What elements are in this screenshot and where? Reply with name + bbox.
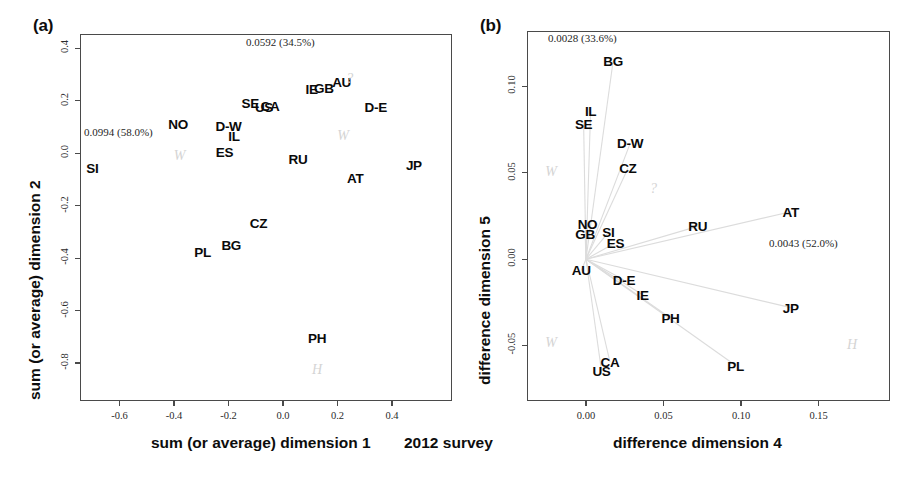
point-label-jp: JP bbox=[406, 158, 422, 173]
x-tick-mark bbox=[663, 401, 664, 406]
y-tick-label: 0.05 bbox=[506, 161, 517, 181]
panel-b-dim5-inertia: 0.0028 (33.6%) bbox=[548, 32, 617, 44]
panel-b-tag: (b) bbox=[480, 16, 501, 36]
y-tick-mark bbox=[75, 258, 80, 259]
point-label-ca: CA bbox=[260, 99, 279, 114]
point-label-de: D-E bbox=[613, 272, 635, 287]
panel-a-dim1-inertia: 0.0994 (58.0%) bbox=[84, 126, 153, 138]
x-tick-mark bbox=[119, 401, 120, 406]
y-tick-mark bbox=[75, 48, 80, 49]
point-label-ie: IE bbox=[636, 287, 648, 302]
x-tick-mark bbox=[585, 401, 586, 406]
point-label-cz: CZ bbox=[250, 215, 267, 230]
x-tick-label: -0.6 bbox=[111, 410, 128, 421]
x-tick-label: 0.0 bbox=[276, 410, 289, 421]
x-tick-mark bbox=[740, 401, 741, 406]
y-tick-label: -0.4 bbox=[59, 247, 70, 267]
x-tick-mark bbox=[173, 401, 174, 406]
y-tick-label: 0.0 bbox=[59, 142, 70, 162]
x-tick-label: 0.4 bbox=[385, 410, 398, 421]
x-tick-label: 0.05 bbox=[654, 410, 672, 421]
y-tick-mark bbox=[522, 172, 527, 173]
point-label-at: AT bbox=[347, 171, 363, 186]
panel-b-y-axis-title: difference dimension 5 bbox=[476, 216, 494, 385]
point-label-il: IL bbox=[228, 129, 239, 144]
point-label-au: AU bbox=[572, 263, 591, 278]
survey-year-label: 2012 survey bbox=[404, 434, 493, 452]
panel-b-dim4-inertia: 0.0043 (52.0%) bbox=[769, 237, 838, 249]
watermark-glyph: W bbox=[174, 148, 186, 164]
watermark-glyph: W bbox=[545, 335, 557, 351]
point-label-pl: PL bbox=[727, 358, 744, 373]
watermark-glyph: H bbox=[847, 337, 857, 353]
watermark-glyph: H bbox=[312, 362, 322, 378]
panel-b-x-axis-title: difference dimension 4 bbox=[613, 434, 782, 452]
y-tick-mark bbox=[522, 345, 527, 346]
panel-a-x-axis-title: sum (or average) dimension 1 bbox=[151, 434, 371, 452]
y-tick-label: -0.2 bbox=[59, 194, 70, 214]
two-panel-correspondence-analysis-figure: (a) sum (or average) dimension 2 sum (or… bbox=[0, 0, 923, 484]
point-label-de: D-E bbox=[365, 100, 387, 115]
point-label-ru: RU bbox=[289, 151, 308, 166]
point-label-no: NO bbox=[168, 117, 188, 132]
y-tick-label: -0.05 bbox=[506, 334, 517, 354]
y-tick-mark bbox=[75, 100, 80, 101]
point-label-pl: PL bbox=[194, 244, 211, 259]
y-tick-label: 0.10 bbox=[506, 75, 517, 95]
point-label-gb: GB bbox=[314, 80, 334, 95]
x-tick-mark bbox=[818, 401, 819, 406]
y-tick-label: 0.00 bbox=[506, 248, 517, 268]
point-label-at: AT bbox=[783, 204, 799, 219]
x-tick-label: 0.10 bbox=[732, 410, 750, 421]
x-tick-label: 0.2 bbox=[331, 410, 344, 421]
y-tick-label: 0.2 bbox=[59, 89, 70, 109]
point-label-bg: BG bbox=[221, 238, 241, 253]
x-tick-mark bbox=[391, 401, 392, 406]
point-label-dw: D-W bbox=[617, 136, 643, 151]
y-tick-mark bbox=[75, 153, 80, 154]
x-tick-label: -0.4 bbox=[166, 410, 183, 421]
point-label-gb: GB bbox=[575, 227, 595, 242]
y-tick-mark bbox=[75, 205, 80, 206]
x-tick-mark bbox=[228, 401, 229, 406]
point-label-se: SE bbox=[575, 116, 592, 131]
panel-a-tag: (a) bbox=[33, 16, 53, 36]
y-tick-mark bbox=[522, 259, 527, 260]
x-tick-label: 0.00 bbox=[577, 410, 595, 421]
point-label-ca: CA bbox=[601, 355, 620, 370]
y-tick-mark bbox=[522, 86, 527, 87]
watermark-glyph: ? bbox=[346, 71, 353, 87]
panel-a-dim2-inertia: 0.0592 (34.5%) bbox=[246, 36, 315, 48]
point-label-bg: BG bbox=[603, 54, 623, 69]
point-label-ru: RU bbox=[688, 219, 707, 234]
watermark-glyph: W bbox=[337, 128, 349, 144]
y-tick-mark bbox=[75, 310, 80, 311]
point-label-es: ES bbox=[216, 144, 233, 159]
point-label-es: ES bbox=[607, 235, 624, 250]
x-tick-mark bbox=[337, 401, 338, 406]
point-label-cz: CZ bbox=[619, 161, 636, 176]
point-label-ph: PH bbox=[308, 331, 326, 346]
y-tick-label: 0.4 bbox=[59, 37, 70, 57]
point-label-ph: PH bbox=[661, 311, 679, 326]
y-tick-label: -0.8 bbox=[59, 351, 70, 371]
watermark-glyph: W bbox=[545, 164, 557, 180]
x-tick-label: 0.15 bbox=[809, 410, 827, 421]
panel-a-y-axis-title: sum (or average) dimension 2 bbox=[26, 180, 44, 400]
y-tick-label: -0.6 bbox=[59, 299, 70, 319]
point-label-jp: JP bbox=[783, 300, 799, 315]
x-tick-mark bbox=[282, 401, 283, 406]
y-tick-mark bbox=[75, 362, 80, 363]
x-tick-label: -0.2 bbox=[220, 410, 237, 421]
point-label-si: SI bbox=[86, 160, 98, 175]
watermark-glyph: ? bbox=[650, 181, 657, 197]
